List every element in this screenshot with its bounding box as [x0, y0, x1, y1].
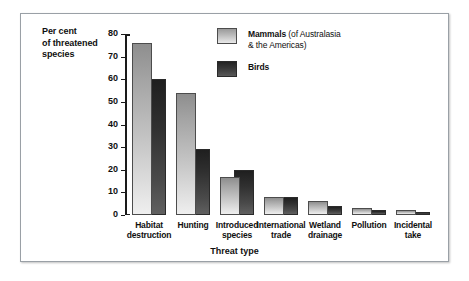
- y-axis-tick-mark: [121, 79, 125, 80]
- y-axis-tick-mark: [121, 125, 125, 126]
- y-axis-tick-mark: [121, 170, 125, 171]
- y-axis-tick-label: 30: [108, 141, 118, 151]
- x-axis-category-label-line: drainage: [298, 230, 353, 240]
- y-axis-tick-mark: [121, 215, 125, 216]
- y-axis-tick-label: 40: [108, 119, 118, 129]
- y-axis-tick-label: 60: [108, 73, 118, 83]
- chart-figure: Per cent of threatened species Mammals (…: [20, 13, 449, 262]
- bar-groups: [127, 34, 433, 215]
- bar-mammals: [264, 197, 284, 215]
- y-axis-tick-mark: [121, 147, 125, 148]
- plot-area: 01020304050607080: [125, 34, 433, 215]
- x-axis-category-label: Incidentaltake: [386, 220, 441, 240]
- bar-group: [396, 34, 430, 215]
- bar-mammals: [220, 177, 240, 215]
- y-axis-tick-label: 20: [108, 164, 118, 174]
- bar-group: [132, 34, 166, 215]
- x-axis-category-labels: HabitatdestructionHuntingIntroducedspeci…: [127, 220, 435, 248]
- y-axis-tick-mark: [121, 102, 125, 103]
- y-axis-label-line-2: of threatened: [42, 38, 120, 50]
- y-axis-tick-label: 0: [113, 209, 118, 219]
- x-axis-label: Threat type: [21, 246, 448, 256]
- bar-group: [176, 34, 210, 215]
- bar-mammals: [132, 43, 152, 215]
- bar-mammals: [176, 93, 196, 215]
- bar-group: [264, 34, 298, 215]
- bar-mammals: [352, 208, 372, 215]
- y-axis-tick-mark: [121, 57, 125, 58]
- x-axis-category-label-line: destruction: [122, 230, 177, 240]
- x-axis-category-label-line: Incidental: [386, 220, 441, 230]
- y-axis-tick-label: 10: [108, 186, 118, 196]
- bar-mammals: [396, 210, 416, 215]
- x-axis-category-label-line: take: [386, 230, 441, 240]
- bar-group: [352, 34, 386, 215]
- y-axis-tick-mark: [121, 192, 125, 193]
- y-axis-tick-label: 70: [108, 51, 118, 61]
- bar-group: [220, 34, 254, 215]
- bar-group: [308, 34, 342, 215]
- y-axis-tick-label: 80: [108, 28, 118, 38]
- bar-mammals: [308, 201, 328, 215]
- y-axis-tick-mark: [121, 34, 125, 35]
- y-axis-tick-label: 50: [108, 96, 118, 106]
